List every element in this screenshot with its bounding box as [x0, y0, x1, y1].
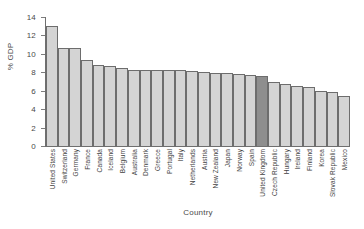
x-tick-label: Australia — [130, 149, 137, 175]
y-tick-label: 10 — [27, 49, 36, 58]
bar — [163, 70, 175, 146]
bar — [245, 75, 257, 146]
x-tick-label: Czech Republic — [270, 149, 277, 196]
bar — [46, 26, 58, 146]
bar — [327, 92, 339, 146]
x-tick-label: Belgium — [118, 149, 125, 173]
bar-cell — [93, 17, 105, 146]
x-tick-label: Norway — [235, 149, 242, 172]
bar-cell — [198, 17, 210, 146]
x-tick-cell: Norway — [233, 148, 245, 204]
y-tick-label: 6 — [31, 86, 36, 95]
bar-cell — [104, 17, 116, 146]
x-tick-label: Korea — [317, 149, 324, 167]
x-tick-label: Switzerland — [60, 149, 67, 184]
bar — [280, 84, 292, 146]
bar-cell — [233, 17, 245, 146]
x-tick-cell: Spain — [245, 148, 257, 204]
x-tick-cell: Finland — [303, 148, 315, 204]
bar — [151, 70, 163, 146]
x-tick-cell: Korea — [315, 148, 327, 204]
bar-cell — [256, 17, 268, 146]
x-tick-label: Mexico — [341, 149, 348, 170]
bar-cell — [221, 17, 233, 146]
x-tick-label: Canada — [95, 149, 102, 172]
bar — [233, 74, 245, 146]
bar-cell — [46, 17, 58, 146]
x-tick-label: Greece — [154, 149, 161, 171]
x-tick-cell: New Zealand — [210, 148, 222, 204]
x-tick-cell: United States — [46, 148, 58, 204]
x-tick-label: Denmark — [142, 149, 149, 176]
x-tick-cell: Greece — [151, 148, 163, 204]
bar — [175, 70, 187, 146]
x-tick-cell: Ireland — [291, 148, 303, 204]
y-tick-label: 4 — [31, 105, 36, 114]
y-tick-label: 0 — [31, 142, 36, 151]
y-tick-label: 2 — [31, 123, 36, 132]
x-tick-label: Austria — [200, 149, 207, 170]
bar — [116, 68, 128, 146]
bar-cell — [151, 17, 163, 146]
x-tick-label: United Kingdom — [259, 149, 266, 197]
x-tick-label: Spain — [247, 149, 254, 166]
bar-cell — [245, 17, 257, 146]
x-tick-cell: Germany — [69, 148, 81, 204]
bar-cell — [210, 17, 222, 146]
x-tick-label: United States — [48, 149, 55, 189]
bar — [81, 60, 93, 146]
bar — [186, 71, 198, 146]
x-tick-label: Iceland — [107, 149, 114, 171]
bar — [104, 66, 116, 146]
bar — [303, 87, 315, 146]
x-tick-cell: Czech Republic — [268, 148, 280, 204]
bar — [69, 48, 81, 146]
bar-cell — [291, 17, 303, 146]
bar — [268, 82, 280, 147]
bar-cell — [81, 17, 93, 146]
x-tick-cell: Netherlands — [186, 148, 198, 204]
bar — [256, 76, 268, 146]
x-tick-label: Slovak Republic — [329, 149, 336, 197]
bar-cell — [175, 17, 187, 146]
plot-area — [46, 17, 350, 146]
x-tick-cell: France — [81, 148, 93, 204]
x-tick-label: Finland — [305, 149, 312, 171]
bar-cell — [338, 17, 350, 146]
x-tick-cell: Canada — [93, 148, 105, 204]
bar-cell — [58, 17, 70, 146]
x-tick-cell: Italy — [175, 148, 187, 204]
x-tick-label: Portugal — [165, 149, 172, 174]
bar — [210, 73, 222, 146]
bar-cell — [116, 17, 128, 146]
bar — [291, 86, 303, 146]
x-axis-line — [45, 146, 350, 147]
x-tick-cell: Portugal — [163, 148, 175, 204]
x-tick-cell: Switzerland — [58, 148, 70, 204]
bar-cell — [280, 17, 292, 146]
x-tick-cell: Denmark — [140, 148, 152, 204]
bar-cell — [315, 17, 327, 146]
x-tick-label: Hungary — [282, 149, 289, 174]
x-tick-cell: Japan — [221, 148, 233, 204]
bar — [221, 73, 233, 146]
bar-cell — [69, 17, 81, 146]
x-axis-title: Country — [46, 208, 350, 217]
x-tick-cell: Mexico — [338, 148, 350, 204]
x-tick-cell: Australia — [128, 148, 140, 204]
x-tick-label: Netherlands — [189, 149, 196, 185]
bar — [338, 96, 350, 146]
x-tick-cell: Belgium — [116, 148, 128, 204]
x-tick-label: Italy — [177, 149, 184, 161]
x-tick-label: Japan — [224, 149, 231, 167]
bar — [315, 91, 327, 146]
bar-cell — [303, 17, 315, 146]
bar-cell — [327, 17, 339, 146]
bar-series — [46, 17, 350, 146]
bar — [93, 65, 105, 146]
x-tick-label: New Zealand — [212, 149, 219, 188]
bar — [140, 70, 152, 146]
y-axis: 02468101214 — [0, 0, 46, 229]
x-axis-tick-labels: United StatesSwitzerlandGermanyFranceCan… — [46, 148, 350, 204]
bar — [198, 72, 210, 146]
